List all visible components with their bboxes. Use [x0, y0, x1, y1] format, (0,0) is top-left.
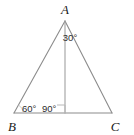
right-angle-square-icon	[57, 105, 65, 113]
angle-label-foot-90: 90°	[42, 103, 57, 114]
vertex-label-a: A	[60, 2, 69, 17]
vertex-label-c: C	[111, 119, 120, 134]
triangle-diagram-svg: A B C 30° 60° 90°	[0, 0, 134, 135]
angle-label-b-60: 60°	[22, 103, 37, 114]
triangle-side-ab	[14, 21, 65, 113]
geometry-figure: A B C 30° 60° 90°	[0, 0, 134, 135]
angle-label-apex-30: 30°	[63, 32, 78, 43]
vertex-label-b: B	[8, 119, 16, 134]
